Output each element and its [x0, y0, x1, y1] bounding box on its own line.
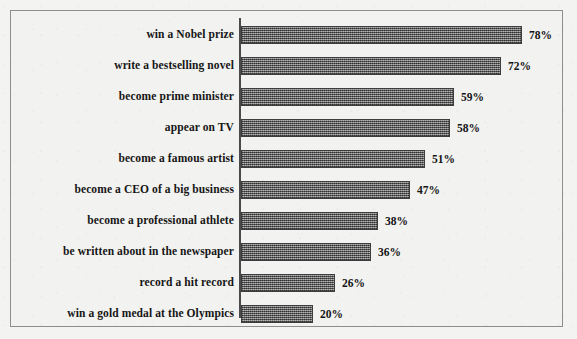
bar [241, 57, 501, 75]
bar-row: win a gold medal at the Olympics 20% [11, 305, 564, 323]
category-label: appear on TV [0, 117, 234, 137]
bar-row: become a famous artist 51% [11, 150, 564, 168]
bar-row: appear on TV 58% [11, 119, 564, 137]
bar-row: become a professional athlete 38% [11, 212, 564, 230]
category-label: record a hit record [0, 272, 234, 292]
bar-row: become a CEO of a big business 47% [11, 181, 564, 199]
category-label: become a professional athlete [0, 210, 234, 230]
category-label: win a gold medal at the Olympics [0, 303, 234, 323]
bar [241, 181, 410, 199]
chart-page: win a Nobel prize 78% write a bestsellin… [0, 0, 577, 339]
bar [241, 88, 454, 106]
category-label: be written about in the newspaper [0, 241, 234, 261]
category-label: become prime minister [0, 86, 234, 106]
bar-row: write a bestselling novel 72% [11, 57, 564, 75]
bar-value-label: 20% [320, 305, 343, 323]
bar [241, 26, 522, 44]
chart-frame: win a Nobel prize 78% write a bestsellin… [10, 10, 563, 327]
category-label: become a CEO of a big business [0, 179, 234, 199]
bar-value-label: 36% [378, 243, 401, 261]
bar-row: be written about in the newspaper 36% [11, 243, 564, 261]
bar-value-label: 47% [417, 181, 440, 199]
bar-value-label: 51% [432, 150, 455, 168]
bar-value-label: 26% [342, 274, 365, 292]
bar-value-label: 78% [529, 26, 552, 44]
category-label: write a bestselling novel [0, 55, 234, 75]
bar [241, 305, 313, 323]
bar-value-label: 58% [457, 119, 480, 137]
bar-value-label: 59% [461, 88, 484, 106]
bar [241, 274, 335, 292]
bar-row: win a Nobel prize 78% [11, 26, 564, 44]
bar-row: record a hit record 26% [11, 274, 564, 292]
bar [241, 243, 371, 261]
bar-value-label: 72% [508, 57, 531, 75]
bar [241, 212, 378, 230]
plot-area: win a Nobel prize 78% write a bestsellin… [11, 11, 564, 328]
bar [241, 119, 450, 137]
category-label: win a Nobel prize [0, 24, 234, 44]
bar-value-label: 38% [385, 212, 408, 230]
category-label: become a famous artist [0, 148, 234, 168]
bar-row: become prime minister 59% [11, 88, 564, 106]
bar [241, 150, 425, 168]
